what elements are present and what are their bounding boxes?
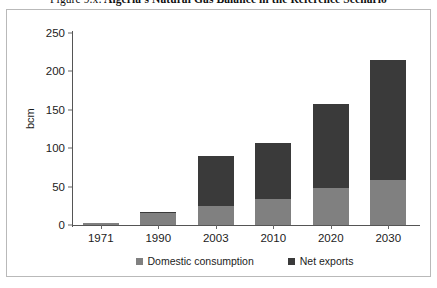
bar-segment-domestic-consumption[interactable] — [198, 206, 234, 225]
x-tick-mark — [273, 225, 274, 229]
bar-segment-net-exports[interactable] — [313, 104, 349, 188]
bar-segment-domestic-consumption[interactable] — [370, 180, 406, 225]
bar-group[interactable]: 2003 — [198, 156, 234, 225]
plot-area: 050100150200250 197119902003201020202030 — [72, 33, 417, 225]
y-tick-label: 200 — [46, 65, 65, 77]
figure-number: Figure 9.x: — [50, 0, 102, 5]
y-tick-label: 150 — [46, 104, 65, 116]
y-axis-label: bcm — [24, 108, 36, 129]
bar-group[interactable]: 2020 — [313, 104, 349, 225]
x-tick-mark — [388, 225, 389, 229]
bar-segment-domestic-consumption[interactable] — [140, 213, 176, 225]
y-tick-mark — [68, 186, 72, 187]
x-tick-label: 2003 — [203, 232, 229, 244]
x-axis-line — [72, 225, 420, 226]
figure-title-text: Algeria's Natural Gas Balance in the Ref… — [104, 0, 387, 5]
y-tick-mark — [68, 148, 72, 149]
y-tick-mark — [68, 71, 72, 72]
x-tick-label: 2010 — [260, 232, 286, 244]
bar-group[interactable]: 1971 — [83, 223, 119, 225]
y-tick-label: 0 — [59, 219, 65, 231]
x-tick-mark — [216, 225, 217, 229]
legend-item[interactable]: Net exports — [288, 255, 354, 267]
figure-title: Figure 9.x: Algeria's Natural Gas Balanc… — [0, 0, 437, 5]
bar-group[interactable]: 2030 — [370, 60, 406, 225]
x-tick-mark — [101, 225, 102, 229]
y-tick-mark — [68, 109, 72, 110]
bar-segment-net-exports[interactable] — [198, 156, 234, 206]
x-tick-label: 2030 — [375, 232, 401, 244]
legend-item[interactable]: Domestic consumption — [136, 255, 254, 267]
legend-item-label: Domestic consumption — [148, 255, 254, 267]
bar-segment-net-exports[interactable] — [370, 60, 406, 180]
legend-item-label: Net exports — [300, 255, 354, 267]
y-tick-mark — [68, 225, 72, 226]
x-tick-mark — [158, 225, 159, 229]
y-tick-label: 50 — [52, 181, 65, 193]
bar-segment-domestic-consumption[interactable] — [255, 199, 291, 225]
y-tick-mark — [68, 33, 72, 34]
legend-swatch-icon — [136, 258, 143, 265]
figure-root: Figure 9.x: Algeria's Natural Gas Balanc… — [0, 0, 437, 288]
chart-legend: Domestic consumptionNet exports — [72, 255, 417, 267]
bar-group[interactable]: 2010 — [255, 143, 291, 225]
y-tick-label: 100 — [46, 142, 65, 154]
bar-segment-domestic-consumption[interactable] — [313, 188, 349, 225]
bar-group[interactable]: 1990 — [140, 212, 176, 225]
legend-swatch-icon — [288, 258, 295, 265]
x-tick-mark — [331, 225, 332, 229]
y-tick-label: 250 — [46, 27, 65, 39]
x-tick-label: 1990 — [145, 232, 171, 244]
x-tick-label: 1971 — [88, 232, 114, 244]
x-tick-label: 2020 — [318, 232, 344, 244]
bar-segment-net-exports[interactable] — [255, 143, 291, 199]
